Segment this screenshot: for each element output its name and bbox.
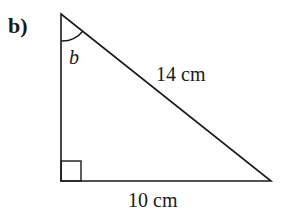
part-label: b) <box>8 13 28 38</box>
right-triangle <box>61 14 271 181</box>
base-label: 10 cm <box>128 189 178 211</box>
triangle-diagram: b) b 14 cm 10 cm <box>0 0 285 214</box>
hypotenuse-label: 14 cm <box>156 63 206 85</box>
angle-label: b <box>69 46 79 68</box>
angle-arc <box>61 31 83 41</box>
right-angle-marker <box>61 161 81 181</box>
